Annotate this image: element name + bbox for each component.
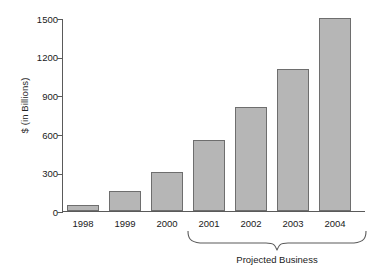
y-axis-tick-0 (57, 212, 63, 213)
bar-2001 (193, 140, 225, 211)
bar-2002 (235, 107, 267, 211)
bar-2003 (277, 69, 309, 211)
x-tick-label-2001: 2001 (188, 218, 230, 229)
x-axis-line (62, 211, 365, 212)
x-tick-label-1999: 1999 (104, 218, 146, 229)
y-tick-label-1200: 1200 (37, 53, 58, 63)
bar-1998 (67, 205, 99, 211)
x-tick-label-2003: 2003 (272, 218, 314, 229)
y-axis-tick-1200 (57, 58, 63, 59)
bar-chart: $ (in Billions) 1500 1200 900 600 300 0 … (0, 0, 377, 278)
bar-1999 (109, 191, 141, 211)
bar-2000 (151, 172, 183, 211)
plot-area (62, 19, 365, 212)
y-tick-label-1500: 1500 (37, 15, 58, 25)
y-axis-tick-1500 (57, 19, 63, 20)
y-axis-tick-labels: 1500 1200 900 600 300 0 (20, 0, 58, 278)
projected-business-label: Projected Business (186, 254, 368, 265)
y-tick-label-900: 900 (42, 92, 58, 102)
y-axis-tick-900 (57, 96, 63, 97)
projected-business-brace (186, 231, 368, 251)
y-axis-tick-300 (57, 174, 63, 175)
y-tick-label-600: 600 (42, 131, 58, 141)
bar-2004 (319, 18, 351, 211)
x-tick-label-2004: 2004 (314, 218, 356, 229)
y-tick-label-300: 300 (42, 169, 58, 179)
x-tick-label-2000: 2000 (146, 218, 188, 229)
y-axis-tick-600 (57, 135, 63, 136)
x-tick-label-2002: 2002 (230, 218, 272, 229)
x-tick-label-1998: 1998 (62, 218, 104, 229)
y-axis-line (62, 19, 63, 213)
